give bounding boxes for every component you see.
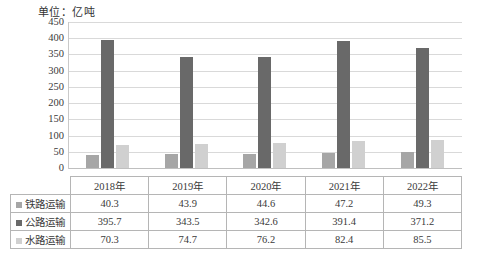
y-axis-tick-label: 400	[48, 33, 64, 43]
bar-水路运输-2021年	[352, 141, 365, 168]
table-cell: 74.7	[149, 231, 227, 249]
table-cell: 342.6	[227, 213, 305, 231]
legend-label: 水路运输	[25, 235, 65, 246]
bar-group	[226, 22, 305, 168]
y-axis-tick-label: 250	[48, 82, 64, 92]
bar-group	[147, 22, 226, 168]
bar-水路运输-2019年	[195, 144, 208, 168]
bar-水路运输-2018年	[116, 145, 129, 168]
table-cell: 43.9	[149, 195, 227, 213]
table-header-2021年: 2021年	[305, 177, 383, 195]
bar-group	[68, 22, 147, 168]
y-axis-tick-label: 50	[54, 147, 65, 157]
chart-figure: 单位：亿吨 450400350300250200150100500 2018年2…	[0, 0, 478, 255]
table-cell: 40.3	[71, 195, 149, 213]
bar-水路运输-2020年	[273, 143, 286, 168]
legend-item-水路运输[interactable]: 水路运输	[11, 231, 71, 249]
bar-水路运输-2022年	[431, 140, 444, 168]
table-header-2020年: 2020年	[227, 177, 305, 195]
table-row: 水路运输70.374.776.282.485.5	[11, 231, 462, 249]
bar-铁路运输-2019年	[165, 154, 178, 168]
y-axis-tick-label: 150	[48, 114, 64, 124]
unit-caption: 单位：亿吨	[38, 3, 95, 19]
table-cell: 70.3	[71, 231, 149, 249]
table-cell: 343.5	[149, 213, 227, 231]
bar-公路运输-2022年	[416, 48, 429, 168]
table-cell: 391.4	[305, 213, 383, 231]
legend-swatch-icon	[16, 202, 22, 208]
bar-公路运输-2018年	[101, 40, 114, 168]
y-axis-tick-label: 300	[48, 66, 64, 76]
bar-公路运输-2021年	[337, 41, 350, 168]
table-header-2022年: 2022年	[383, 177, 461, 195]
y-axis-tick-label: 0	[59, 163, 64, 173]
data-table: 2018年2019年2020年2021年2022年铁路运输40.343.944.…	[10, 176, 462, 249]
gridline	[68, 168, 462, 169]
table-cell: 49.3	[383, 195, 461, 213]
bar-group	[383, 22, 462, 168]
table-cell: 76.2	[227, 231, 305, 249]
table-cell: 371.2	[383, 213, 461, 231]
table-cell: 395.7	[71, 213, 149, 231]
table-header-2019年: 2019年	[149, 177, 227, 195]
bar-公路运输-2020年	[258, 57, 271, 168]
y-axis-tick-label: 350	[48, 49, 64, 59]
y-axis-tick-label: 100	[48, 131, 64, 141]
legend-label: 铁路运输	[25, 199, 65, 210]
table-row: 公路运输395.7343.5342.6391.4371.2	[11, 213, 462, 231]
table-cell: 85.5	[383, 231, 461, 249]
bar-公路运输-2019年	[180, 57, 193, 168]
bar-铁路运输-2022年	[401, 152, 414, 168]
legend-label: 公路运输	[25, 217, 65, 228]
table-header-row: 2018年2019年2020年2021年2022年	[11, 177, 462, 195]
y-axis-tick-label: 450	[48, 17, 64, 27]
legend-item-公路运输[interactable]: 公路运输	[11, 213, 71, 231]
table-cell: 82.4	[305, 231, 383, 249]
bar-铁路运输-2020年	[243, 154, 256, 168]
bar-group	[304, 22, 383, 168]
table-row: 铁路运输40.343.944.647.249.3	[11, 195, 462, 213]
y-axis: 450400350300250200150100500	[0, 22, 68, 177]
table-cell: 47.2	[305, 195, 383, 213]
legend-swatch-icon	[16, 220, 22, 226]
legend-item-铁路运输[interactable]: 铁路运输	[11, 195, 71, 213]
legend-swatch-icon	[16, 238, 22, 244]
table-corner-cell	[11, 177, 71, 195]
bar-铁路运输-2018年	[86, 155, 99, 168]
bar-groups	[68, 22, 462, 168]
plot-area: 450400350300250200150100500	[0, 22, 478, 177]
bar-铁路运输-2021年	[322, 153, 335, 168]
y-axis-tick-label: 200	[48, 98, 64, 108]
table-cell: 44.6	[227, 195, 305, 213]
table-header-2018年: 2018年	[71, 177, 149, 195]
